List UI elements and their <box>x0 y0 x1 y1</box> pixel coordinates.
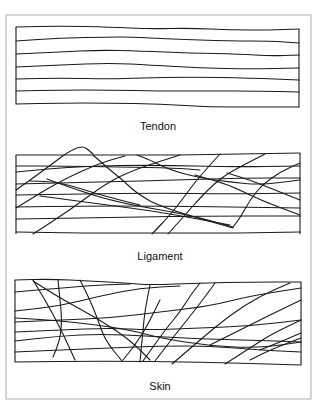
tendon-fiber <box>16 26 299 30</box>
tendon-label: Tendon <box>140 120 176 132</box>
tendon-box-edges <box>16 27 299 107</box>
ligament-fiber <box>47 179 233 227</box>
ligament-fiber <box>16 206 300 208</box>
ligament-fiber <box>227 173 300 200</box>
skin-box-edges <box>15 280 301 365</box>
skin-fibers <box>15 279 301 365</box>
ligament-fibers <box>16 147 300 234</box>
skin-panel: Skin <box>15 279 301 392</box>
fiber-orientation-figure: Tendon Ligament Skin <box>0 0 322 411</box>
skin-fiber <box>155 283 215 361</box>
tendon-fiber <box>16 77 299 80</box>
ligament-panel: Ligament <box>16 147 300 262</box>
skin-fiber <box>15 284 130 292</box>
skin-fiber <box>53 280 62 357</box>
ligament-label: Ligament <box>137 250 182 262</box>
tendon-fiber <box>16 37 299 43</box>
tendon-panel: Tendon <box>16 26 299 132</box>
tendon-fiber <box>16 103 299 107</box>
tendon-fibers <box>16 26 299 107</box>
tendon-fiber <box>16 64 299 69</box>
tendon-fiber <box>16 50 299 55</box>
skin-fiber <box>15 335 301 343</box>
tendon-fiber <box>16 90 299 92</box>
ligament-fiber <box>195 175 300 215</box>
ligament-fiber <box>16 153 300 155</box>
ligament-fiber <box>233 163 300 227</box>
ligament-fiber <box>16 232 300 233</box>
skin-fiber <box>15 361 301 365</box>
skin-fiber <box>15 320 301 332</box>
ligament-fiber <box>16 193 300 195</box>
skin-fiber <box>143 283 200 361</box>
skin-label: Skin <box>149 380 170 392</box>
ligament-fiber <box>137 155 300 184</box>
